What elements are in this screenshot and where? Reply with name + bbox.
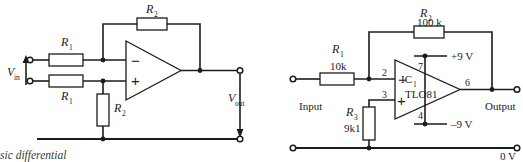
vin-label-sub: in	[14, 73, 20, 82]
resistor-r1-bottom-body	[49, 75, 83, 87]
opamp-noninverting-sign: +	[131, 72, 140, 89]
feedback-right-wire	[167, 24, 200, 70]
resistor-r2-ground-body	[97, 94, 109, 126]
r1-top-label-sub: 1	[69, 43, 73, 52]
opamp-noninverting-sign-2: +	[397, 92, 406, 109]
tl081-inverting-amplifier-figure: R 2 100 k R 1 10k R 3 9k1 2 3 7 4 6 IC 1…	[262, 0, 523, 162]
zero-volt-rail	[290, 145, 520, 151]
figure-caption: sic differential	[0, 149, 66, 162]
opamp-inverting-sign: −	[131, 52, 140, 69]
r3-label: R	[345, 105, 354, 119]
r2-ground-label: R	[113, 101, 122, 115]
r2-feedback-label-sub: 2	[154, 10, 158, 19]
opamp-symbol	[126, 41, 243, 100]
output-label: Output	[485, 100, 516, 112]
resistor-r2-feedback-body	[137, 18, 167, 30]
input-branch-top	[27, 54, 126, 66]
resistor-r1-top-body	[49, 54, 83, 66]
input-branch-2	[290, 73, 395, 85]
junction-output-node	[198, 68, 203, 73]
r3-value: 9k1	[344, 122, 361, 134]
negative-supply-label: –9 V	[450, 118, 473, 130]
bias-branch	[97, 81, 109, 141]
opamp-inverting-sign-2: −	[398, 71, 407, 88]
r1-bottom-label-sub: 1	[69, 97, 73, 106]
input-terminal[interactable]	[290, 76, 296, 82]
pin-7-label: 7	[418, 61, 423, 72]
input-label: Input	[299, 100, 322, 112]
ic-part-number-label: TLO81	[405, 88, 437, 100]
pin-2-label: 2	[382, 67, 387, 78]
pin-6-label: 6	[465, 77, 470, 88]
positive-supply-label: +9 V	[451, 50, 473, 62]
input-terminal-bottom[interactable]	[27, 78, 33, 84]
junction-inverting-node-2	[367, 77, 372, 82]
r2-value: 100 k	[417, 16, 442, 28]
pin-3-label: 3	[382, 89, 387, 100]
opamp-triangle-body	[126, 41, 181, 100]
basic-differential-amplifier-figure: V in V out R 2 R 1 R 1 R 2 − + sic diffe…	[0, 0, 262, 162]
r1-value: 10k	[330, 60, 347, 72]
junction-output-node-2	[490, 87, 495, 92]
r2-ground-label-sub: 2	[122, 109, 126, 118]
r3-label-sub: 3	[354, 113, 358, 122]
r1-label: R	[331, 42, 340, 56]
input-branch-bottom	[27, 75, 126, 87]
resistor-r3-9k1-body	[363, 107, 375, 140]
figure-page: V in V out R 2 R 1 R 1 R 2 − + sic diffe…	[0, 0, 523, 162]
junction-vneg	[423, 122, 428, 127]
ground-rail	[37, 136, 243, 142]
junction-vpos	[423, 54, 428, 59]
junction-inverting-node	[101, 58, 106, 63]
r3-lead-top	[369, 100, 395, 107]
pin-4-label: 4	[418, 110, 423, 121]
output-terminal-top[interactable]	[237, 68, 243, 74]
r1-top-label: R	[60, 35, 69, 49]
r1-bottom-label: R	[60, 89, 69, 103]
r1-label-sub: 1	[340, 50, 344, 59]
output-terminal[interactable]	[514, 87, 520, 93]
bias-branch-2	[363, 100, 395, 150]
vout-label-sub: out	[235, 99, 246, 108]
r2-feedback-label: R	[145, 2, 154, 16]
zero-volt-terminal-left[interactable]	[290, 145, 296, 151]
resistor-r1-10k-body	[320, 73, 354, 85]
output-terminal-bottom[interactable]	[237, 136, 243, 142]
zero-volt-label: 0 V	[500, 150, 516, 162]
